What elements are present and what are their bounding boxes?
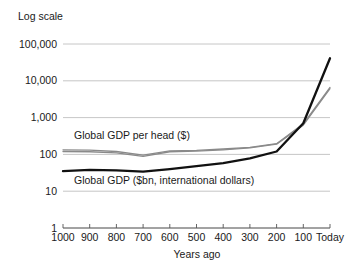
y-axis-tick-label: 100,000 [19, 38, 57, 50]
y-axis-tick-label: 100 [39, 148, 57, 160]
x-axis-tick-label: 200 [268, 231, 286, 243]
x-axis-tick-label: 600 [161, 231, 179, 243]
x-axis-tick-label: 300 [241, 231, 259, 243]
y-axis-tick-label: 10 [45, 185, 57, 197]
series-label: Global GDP per head ($) [74, 129, 190, 141]
x-axis-tick-label: 700 [134, 231, 152, 243]
x-axis-tick-label: 1000 [51, 231, 75, 243]
chart-container: 1101001,00010,000100,000 100090080070060… [0, 0, 349, 274]
x-axis-group: 1000900800700600500400300200100Today [51, 224, 344, 243]
series-line [63, 87, 330, 155]
y-axis-tick-labels: 1101001,00010,000100,000 [19, 38, 57, 234]
series-label: Global GDP ($bn, international dollars) [74, 174, 254, 186]
x-axis-tick-label: 500 [188, 231, 206, 243]
y-axis-tick-label: 10,000 [25, 74, 57, 86]
log-scale-note: Log scale [18, 10, 63, 22]
x-axis-tick-label: Today [316, 231, 345, 243]
x-axis-tick-label: 400 [214, 231, 232, 243]
y-axis-tick-label: 1,000 [31, 111, 57, 123]
x-axis-tick-label: 900 [81, 231, 99, 243]
x-axis-tick-label: 100 [295, 231, 313, 243]
x-axis-title: Years ago [174, 248, 221, 260]
series-annotations-group: Global GDP per head ($)Global GDP ($bn, … [74, 129, 254, 186]
gdp-log-scale-chart: 1101001,00010,000100,000 100090080070060… [0, 0, 349, 274]
series-line [63, 89, 330, 157]
x-axis-tick-label: 800 [108, 231, 126, 243]
